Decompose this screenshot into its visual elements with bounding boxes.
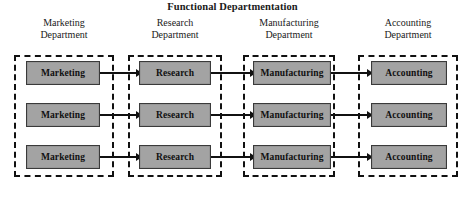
column-header-marketing: MarketingDepartment xyxy=(14,17,114,40)
column-header-line1-manufacturing: Manufacturing xyxy=(239,17,339,29)
functional-departmentation-diagram: Functional Departmentation MarketingDepa… xyxy=(0,0,465,200)
column-header-research: ResearchDepartment xyxy=(125,17,225,40)
unit-box-marketing-2[interactable]: Marketing xyxy=(26,103,100,127)
unit-box-marketing-3[interactable]: Marketing xyxy=(26,145,100,169)
column-header-line2-manufacturing: Department xyxy=(239,29,339,41)
unit-box-manufacturing-2[interactable]: Manufacturing xyxy=(253,103,331,127)
unit-box-research-3[interactable]: Research xyxy=(139,145,211,169)
column-header-line1-research: Research xyxy=(125,17,225,29)
unit-box-marketing-1[interactable]: Marketing xyxy=(26,61,100,85)
unit-box-research-1[interactable]: Research xyxy=(139,61,211,85)
column-header-line2-accounting: Department xyxy=(358,29,458,41)
unit-box-manufacturing-1[interactable]: Manufacturing xyxy=(253,61,331,85)
column-header-line2-research: Department xyxy=(125,29,225,41)
column-header-accounting: AccountingDepartment xyxy=(358,17,458,40)
diagram-title: Functional Departmentation xyxy=(0,1,465,13)
unit-box-accounting-3[interactable]: Accounting xyxy=(371,145,447,169)
column-header-manufacturing: ManufacturingDepartment xyxy=(239,17,339,40)
unit-box-accounting-1[interactable]: Accounting xyxy=(371,61,447,85)
unit-box-accounting-2[interactable]: Accounting xyxy=(371,103,447,127)
column-header-line2-marketing: Department xyxy=(14,29,114,41)
unit-box-manufacturing-3[interactable]: Manufacturing xyxy=(253,145,331,169)
column-header-line1-accounting: Accounting xyxy=(358,17,458,29)
column-header-line1-marketing: Marketing xyxy=(14,17,114,29)
unit-box-research-2[interactable]: Research xyxy=(139,103,211,127)
